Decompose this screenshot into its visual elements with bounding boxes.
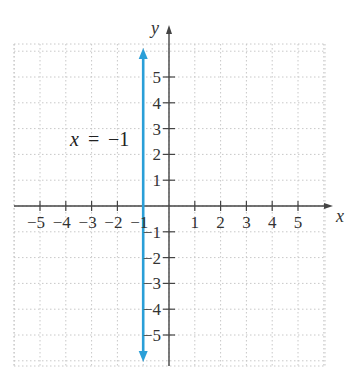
y-tick-label: 1 (153, 171, 162, 190)
x-tick-label: 3 (242, 213, 251, 232)
y-tick-label: −3 (143, 274, 161, 293)
y-tick-label: −1 (143, 223, 161, 242)
equation-annotation: x = −1 (69, 128, 129, 150)
y-axis-arrow-icon (166, 25, 172, 34)
equation-equals: = (88, 128, 99, 150)
coordinate-plane-figure: −5−4−3−2−112345−5−4−3−2−112345 x y x = −… (0, 0, 362, 386)
plot-canvas: −5−4−3−2−112345−5−4−3−2−112345 x y x = −… (0, 0, 362, 386)
y-axis-label: y (149, 18, 159, 38)
x-axis-label: x (335, 206, 344, 226)
equation-lhs: x (69, 128, 79, 150)
x-tick-label: −5 (27, 213, 45, 232)
equation-rhs: −1 (108, 128, 129, 150)
x-tick-label: 5 (294, 213, 303, 232)
x-tick-label: 1 (191, 213, 200, 232)
y-tick-label: 5 (153, 68, 162, 87)
x-axis-arrow-icon (324, 203, 333, 209)
axes (14, 25, 333, 366)
y-tick-label: −2 (143, 249, 161, 268)
x-tick-label: −4 (53, 213, 72, 232)
y-tick-label: 2 (153, 145, 162, 164)
x-tick-label: 2 (216, 213, 225, 232)
y-tick-label: −4 (143, 300, 162, 319)
x-tick-label: −3 (79, 213, 97, 232)
x-tick-label: 4 (268, 213, 277, 232)
y-tick-label: 4 (153, 94, 162, 113)
x-tick-label: −2 (104, 213, 122, 232)
y-tick-label: 3 (153, 120, 162, 139)
arrow-up-icon (139, 48, 148, 59)
y-tick-label: −5 (143, 326, 161, 345)
